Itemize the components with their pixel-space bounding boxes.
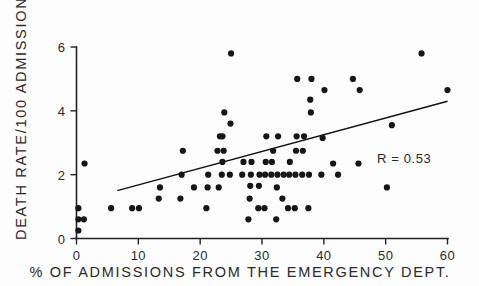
data-point bbox=[355, 160, 361, 166]
data-point bbox=[274, 172, 280, 178]
chart-annotations: R = 0.53 bbox=[377, 151, 431, 166]
data-point bbox=[261, 205, 267, 211]
data-point bbox=[294, 76, 300, 82]
y-axis-ticks: 0246 bbox=[58, 40, 77, 247]
data-point bbox=[293, 148, 299, 154]
data-point bbox=[255, 205, 261, 211]
data-point bbox=[287, 159, 293, 165]
data-point bbox=[270, 148, 276, 154]
data-point bbox=[286, 172, 292, 178]
data-point bbox=[300, 148, 306, 154]
data-point bbox=[301, 133, 307, 139]
data-point bbox=[75, 205, 81, 211]
data-point bbox=[308, 76, 314, 82]
data-point bbox=[227, 172, 233, 178]
data-point bbox=[308, 109, 314, 115]
data-point bbox=[294, 133, 300, 139]
y-axis-title: DEATH RATE/100 ADMISSIONS bbox=[13, 0, 29, 240]
data-point bbox=[279, 196, 285, 202]
x-tick-label: 50 bbox=[378, 248, 393, 263]
data-point bbox=[306, 172, 312, 178]
data-point bbox=[269, 159, 275, 165]
data-point bbox=[292, 172, 298, 178]
data-point bbox=[330, 160, 336, 166]
data-point bbox=[75, 227, 81, 233]
data-point bbox=[273, 216, 279, 222]
x-tick-label: 10 bbox=[131, 248, 146, 263]
data-point bbox=[180, 148, 186, 154]
data-point bbox=[384, 184, 390, 190]
data-point bbox=[444, 87, 450, 93]
x-tick-label: 60 bbox=[440, 248, 455, 263]
data-point bbox=[248, 172, 254, 178]
data-point bbox=[240, 159, 246, 165]
data-point bbox=[219, 172, 225, 178]
data-point bbox=[307, 97, 313, 103]
data-point bbox=[350, 76, 356, 82]
data-points bbox=[75, 50, 450, 233]
data-point bbox=[136, 205, 142, 211]
data-point bbox=[263, 159, 269, 165]
data-point bbox=[247, 183, 253, 189]
data-point bbox=[205, 172, 211, 178]
data-point bbox=[256, 183, 262, 189]
data-point bbox=[305, 205, 311, 211]
y-tick-label: 0 bbox=[58, 232, 66, 247]
data-point bbox=[129, 205, 135, 211]
data-point bbox=[219, 133, 225, 139]
data-point bbox=[203, 205, 209, 211]
data-point bbox=[245, 216, 251, 222]
x-tick-label: 0 bbox=[73, 248, 81, 263]
data-point bbox=[239, 172, 245, 178]
y-tick-label: 4 bbox=[58, 104, 66, 119]
data-point bbox=[281, 172, 287, 178]
data-point bbox=[204, 184, 210, 190]
chart-canvas: DEATH RATE/100 ADMISSIONS % OF ADMISSION… bbox=[0, 0, 479, 286]
data-point bbox=[357, 87, 363, 93]
data-point bbox=[335, 172, 341, 178]
data-point bbox=[179, 172, 185, 178]
scatter-plot-figure: DEATH RATE/100 ADMISSIONS % OF ADMISSION… bbox=[0, 0, 479, 286]
data-point bbox=[263, 133, 269, 139]
data-point bbox=[275, 133, 281, 139]
data-point bbox=[221, 148, 227, 154]
data-point bbox=[248, 159, 254, 165]
y-tick-label: 6 bbox=[58, 40, 66, 55]
data-point bbox=[274, 184, 280, 190]
data-point bbox=[285, 205, 291, 211]
data-point bbox=[81, 160, 87, 166]
data-point bbox=[216, 184, 222, 190]
x-axis-title: % OF ADMISSIONS FROM THE EMERGENCY DEPT. bbox=[29, 264, 450, 280]
data-point bbox=[221, 109, 227, 115]
data-point bbox=[214, 148, 220, 154]
x-tick-label: 20 bbox=[193, 248, 208, 263]
data-point bbox=[268, 172, 274, 178]
data-point bbox=[156, 196, 162, 202]
data-point bbox=[292, 205, 298, 211]
x-tick-label: 30 bbox=[254, 248, 269, 263]
x-tick-label: 40 bbox=[316, 248, 331, 263]
data-point bbox=[418, 50, 424, 56]
data-point bbox=[108, 205, 114, 211]
data-point bbox=[262, 172, 268, 178]
data-point bbox=[227, 121, 233, 127]
data-point bbox=[219, 159, 225, 165]
data-point bbox=[299, 172, 305, 178]
data-point bbox=[191, 184, 197, 190]
data-point bbox=[319, 135, 325, 141]
y-tick-label: 2 bbox=[58, 168, 66, 183]
data-point bbox=[177, 196, 183, 202]
data-point bbox=[256, 172, 262, 178]
data-point bbox=[389, 122, 395, 128]
correlation-coefficient: R = 0.53 bbox=[377, 151, 431, 166]
data-point bbox=[81, 216, 87, 222]
data-point bbox=[247, 196, 253, 202]
data-point bbox=[75, 216, 81, 222]
data-point bbox=[321, 87, 327, 93]
data-point bbox=[228, 50, 234, 56]
data-point bbox=[157, 184, 163, 190]
data-point bbox=[318, 172, 324, 178]
x-axis-ticks: 0102030405060 bbox=[73, 239, 455, 263]
